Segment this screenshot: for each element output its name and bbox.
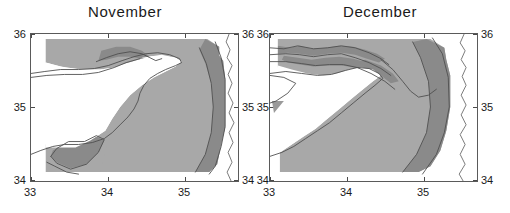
dec-border-group [459, 34, 466, 181]
december-ytick-label-right-35: 35 [481, 101, 501, 113]
december-plot-area[interactable] [269, 33, 478, 182]
december-ytick-label-right-36: 36 [481, 28, 501, 40]
november-ytick-label-34: 34 [6, 174, 26, 186]
november-contour-map [31, 34, 238, 181]
november-ytick-label-35: 35 [6, 101, 26, 113]
november-xtick-label-33: 33 [20, 186, 40, 198]
december-xtick-label-33: 33 [259, 186, 279, 198]
november-xtick-label-35: 35 [174, 186, 194, 198]
december-ytick-label-34: 34 [249, 174, 269, 186]
december-ytick-label-35: 35 [249, 101, 269, 113]
december-xtick-label-35: 35 [413, 186, 433, 198]
november-xtick-label-34: 34 [97, 186, 117, 198]
panel-december: December 36 35 34 36 35 34 33 34 35 [255, 0, 510, 213]
panel-november: November 36 35 34 36 35 34 33 34 35 [0, 0, 255, 213]
december-ytick-label-36: 36 [249, 28, 269, 40]
panel-title-december: December [255, 3, 505, 20]
panel-title-november: November [0, 3, 250, 20]
december-xtick-label-34: 34 [336, 186, 356, 198]
december-ytick-label-right-34: 34 [481, 174, 501, 186]
november-ytick-label-36: 36 [6, 28, 26, 40]
nov-border-east [226, 34, 234, 181]
december-contour-map [270, 34, 477, 181]
november-plot-area[interactable] [30, 33, 239, 182]
dec-border-east [459, 34, 466, 181]
figure-root: November 36 35 34 36 35 34 33 34 35 [0, 0, 510, 213]
nov-border-group [226, 34, 234, 181]
